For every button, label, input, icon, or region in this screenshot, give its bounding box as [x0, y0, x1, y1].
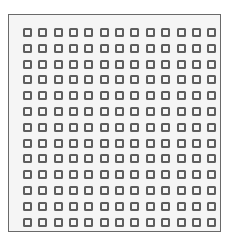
grid-cell-r7-c4 [84, 139, 93, 148]
grid-cell-r3-c3 [69, 75, 78, 84]
grid-cell-r3-c10 [177, 75, 186, 84]
grid-cell-r3-c4 [84, 75, 93, 84]
grid-cell-r9-c2 [54, 170, 63, 179]
grid-cell-r4-c4 [84, 91, 93, 100]
grid-cell-r11-c11 [192, 202, 201, 211]
grid-cell-r4-c9 [161, 91, 170, 100]
grid-cell-r11-c6 [115, 202, 124, 211]
grid-cell-r6-c12 [207, 123, 216, 132]
grid-cell-r1-c4 [84, 44, 93, 53]
grid-cell-r3-c2 [54, 75, 63, 84]
grid-cell-r0-c9 [161, 28, 170, 37]
grid-cell-r12-c1 [38, 218, 47, 227]
grid-cell-r11-c12 [207, 202, 216, 211]
grid-cell-r11-c1 [38, 202, 47, 211]
grid-cell-r7-c1 [38, 139, 47, 148]
grid-cell-r3-c6 [115, 75, 124, 84]
grid-cell-r11-c0 [23, 202, 32, 211]
grid-cell-r1-c10 [177, 44, 186, 53]
grid-cell-r3-c1 [38, 75, 47, 84]
grid-cell-r10-c1 [38, 186, 47, 195]
grid-cell-r10-c10 [177, 186, 186, 195]
grid-cell-r10-c7 [130, 186, 139, 195]
grid-cell-r9-c9 [161, 170, 170, 179]
grid-cell-r4-c7 [130, 91, 139, 100]
grid-cell-r5-c6 [115, 107, 124, 116]
grid-cell-r12-c8 [146, 218, 155, 227]
grid-cell-r5-c5 [100, 107, 109, 116]
grid-cell-r10-c5 [100, 186, 109, 195]
grid-cell-r8-c2 [54, 154, 63, 163]
grid-cell-r8-c5 [100, 154, 109, 163]
grid-cell-r11-c3 [69, 202, 78, 211]
grid-cell-r2-c9 [161, 60, 170, 69]
grid-cell-r6-c3 [69, 123, 78, 132]
grid-cell-r8-c8 [146, 154, 155, 163]
grid-cell-r4-c5 [100, 91, 109, 100]
grid-cell-r1-c11 [192, 44, 201, 53]
grid-cell-r1-c2 [54, 44, 63, 53]
grid-cell-r8-c11 [192, 154, 201, 163]
grid-cell-r1-c0 [23, 44, 32, 53]
grid-cell-r4-c6 [115, 91, 124, 100]
grid-cell-r7-c5 [100, 139, 109, 148]
grid-cell-r9-c0 [23, 170, 32, 179]
grid-cell-r0-c5 [100, 28, 109, 37]
grid-cell-r3-c9 [161, 75, 170, 84]
grid-cell-r3-c7 [130, 75, 139, 84]
grid-cell-r9-c5 [100, 170, 109, 179]
grid-cell-r0-c0 [23, 28, 32, 37]
grid-cell-r9-c3 [69, 170, 78, 179]
grid-cell-r12-c12 [207, 218, 216, 227]
grid-cell-r4-c1 [38, 91, 47, 100]
grid-cell-r4-c8 [146, 91, 155, 100]
grid-cell-r2-c0 [23, 60, 32, 69]
grid-cell-r10-c2 [54, 186, 63, 195]
grid-cell-r11-c4 [84, 202, 93, 211]
grid-frame [8, 14, 221, 232]
grid-cell-r7-c11 [192, 139, 201, 148]
grid-cell-r11-c8 [146, 202, 155, 211]
grid-cell-r4-c11 [192, 91, 201, 100]
grid-cell-r3-c12 [207, 75, 216, 84]
grid-cell-r4-c3 [69, 91, 78, 100]
grid-cell-r12-c9 [161, 218, 170, 227]
grid-cell-r11-c7 [130, 202, 139, 211]
grid-cell-r5-c11 [192, 107, 201, 116]
grid-cell-r3-c11 [192, 75, 201, 84]
grid-cell-r5-c2 [54, 107, 63, 116]
grid-cell-r12-c6 [115, 218, 124, 227]
grid-cell-r6-c6 [115, 123, 124, 132]
grid-cell-r0-c2 [54, 28, 63, 37]
grid-cell-r7-c3 [69, 139, 78, 148]
grid-cell-r11-c10 [177, 202, 186, 211]
grid-cell-r8-c6 [115, 154, 124, 163]
grid-cell-r5-c3 [69, 107, 78, 116]
grid-cell-r0-c8 [146, 28, 155, 37]
grid-cell-r0-c6 [115, 28, 124, 37]
grid-cell-r7-c8 [146, 139, 155, 148]
grid-cell-r2-c1 [38, 60, 47, 69]
grid-cell-r3-c5 [100, 75, 109, 84]
grid-cell-r9-c6 [115, 170, 124, 179]
grid-cell-r9-c8 [146, 170, 155, 179]
grid-cell-r5-c1 [38, 107, 47, 116]
grid-cell-r2-c4 [84, 60, 93, 69]
grid-cell-r9-c7 [130, 170, 139, 179]
grid-cell-r8-c12 [207, 154, 216, 163]
grid-cell-r4-c12 [207, 91, 216, 100]
grid-cell-r7-c12 [207, 139, 216, 148]
grid-cell-r12-c0 [23, 218, 32, 227]
grid-cell-r8-c9 [161, 154, 170, 163]
grid-cell-r10-c4 [84, 186, 93, 195]
grid-cell-r4-c10 [177, 91, 186, 100]
grid-cell-r9-c4 [84, 170, 93, 179]
grid-cell-r5-c9 [161, 107, 170, 116]
grid-cell-r10-c6 [115, 186, 124, 195]
grid-cell-r6-c5 [100, 123, 109, 132]
grid-cell-r6-c10 [177, 123, 186, 132]
grid-cell-r12-c2 [54, 218, 63, 227]
grid-cell-r10-c12 [207, 186, 216, 195]
grid-cell-r8-c0 [23, 154, 32, 163]
grid-cell-r1-c12 [207, 44, 216, 53]
